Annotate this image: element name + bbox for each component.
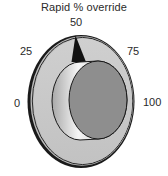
- rapid-override-knob[interactable]: [0, 0, 168, 176]
- knob-cap[interactable]: [52, 61, 127, 140]
- knob-face[interactable]: [69, 61, 127, 139]
